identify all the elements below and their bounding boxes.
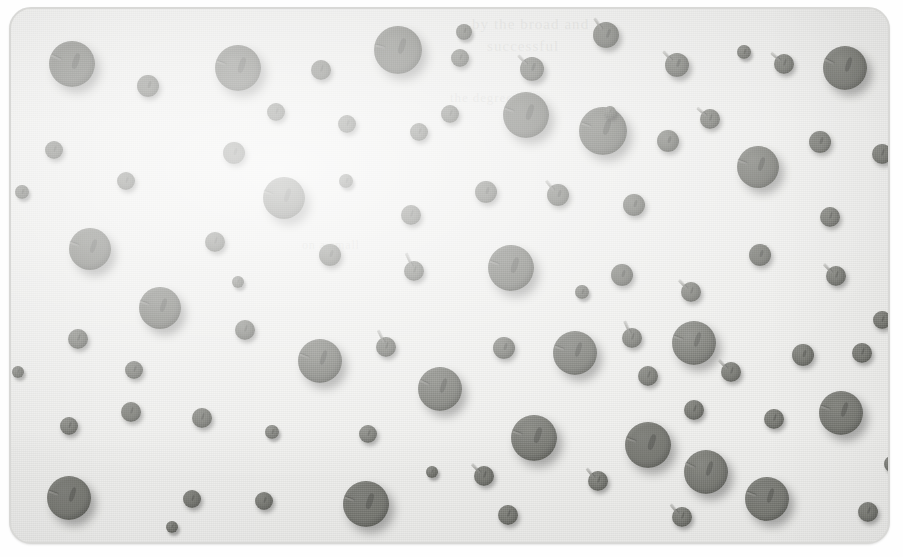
pin-head: [255, 492, 273, 510]
pin-head: [125, 361, 143, 379]
pin: [737, 146, 779, 188]
pin-head: [137, 75, 159, 97]
pin-head: [235, 320, 255, 340]
pin: [475, 181, 497, 203]
pin: [166, 521, 178, 533]
pin-head: [684, 400, 704, 420]
pin-head: [493, 337, 515, 359]
pin: [826, 266, 846, 286]
pin-head: [792, 344, 814, 366]
pin-head: [404, 261, 424, 281]
pin-head: [265, 425, 279, 439]
pin-head: [625, 422, 671, 468]
pin-head: [338, 115, 356, 133]
pin-head: [852, 343, 872, 363]
pin: [625, 422, 671, 468]
pin: [622, 328, 642, 348]
pin: [15, 185, 29, 199]
pin: [792, 344, 814, 366]
pin-head: [47, 476, 91, 520]
pin-head: [263, 177, 305, 219]
pin: [404, 261, 424, 281]
pin-head: [166, 521, 178, 533]
pin-head: [49, 41, 95, 87]
pin-head: [737, 146, 779, 188]
pin: [819, 391, 863, 435]
pin-head: [339, 174, 353, 188]
pin: [376, 337, 396, 357]
pin: [665, 53, 689, 77]
pin-head: [232, 276, 244, 288]
pin: [235, 320, 255, 340]
pin-head: [611, 264, 633, 286]
pin-head: [374, 26, 422, 74]
pin: [69, 228, 111, 270]
pin: [215, 45, 261, 91]
pin-head: [475, 181, 497, 203]
pin: [493, 337, 515, 359]
pin-head: [498, 505, 518, 525]
pin: [265, 425, 279, 439]
pin-head: [121, 402, 141, 422]
pin: [223, 142, 245, 164]
pin: [60, 417, 78, 435]
pin-head: [737, 45, 751, 59]
pin: [520, 57, 544, 81]
pin: [774, 54, 794, 74]
pin: [474, 466, 494, 486]
pin: [745, 477, 789, 521]
pin: [579, 107, 627, 155]
pin-head: [205, 232, 225, 252]
pin-head: [267, 103, 285, 121]
pin: [192, 408, 212, 428]
pin-head: [60, 417, 78, 435]
pin-head: [819, 391, 863, 435]
pin: [684, 450, 728, 494]
pin: [852, 343, 872, 363]
pin-head: [359, 425, 377, 443]
pin: [343, 481, 389, 527]
pin-head: [511, 415, 557, 461]
pin-head: [215, 45, 261, 91]
pin-head: [139, 287, 181, 329]
pin: [823, 46, 867, 90]
pin-head: [45, 141, 63, 159]
pin: [441, 105, 459, 123]
pin-head: [672, 321, 716, 365]
pin: [623, 194, 645, 216]
pin-head: [657, 130, 679, 152]
pin-head: [117, 172, 135, 190]
pin: [339, 174, 353, 188]
pin-head: [858, 502, 878, 522]
pin-head: [872, 144, 890, 164]
pin-head: [823, 46, 867, 90]
pin: [657, 130, 679, 152]
pin: [809, 131, 831, 153]
pin-head: [401, 205, 421, 225]
pin-head: [684, 450, 728, 494]
pin: [410, 123, 428, 141]
pin: [858, 502, 878, 522]
pin: [456, 24, 472, 40]
pin-head: [553, 331, 597, 375]
pin-head: [873, 311, 890, 329]
pin: [319, 244, 341, 266]
pin: [884, 456, 890, 472]
pin-head: [223, 142, 245, 164]
pin-head: [809, 131, 831, 153]
pin-head: [749, 244, 771, 266]
pin: [338, 115, 356, 133]
pin: [547, 184, 569, 206]
pin: [873, 311, 890, 329]
figure-root: by the broad andsuccessfulthe degreeon a…: [0, 0, 903, 557]
pin: [68, 329, 88, 349]
pin: [553, 331, 597, 375]
pin: [47, 476, 91, 520]
scanned-board-panel: by the broad andsuccessfulthe degreeon a…: [9, 7, 890, 544]
pin: [721, 362, 741, 382]
pin-head: [12, 366, 24, 378]
pin: [121, 402, 141, 422]
pin: [183, 490, 201, 508]
pin-head: [503, 92, 549, 138]
pin-head: [418, 367, 462, 411]
